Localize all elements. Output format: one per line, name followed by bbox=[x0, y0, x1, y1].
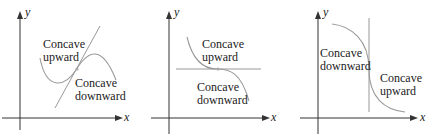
x-axis-arrow-icon bbox=[115, 115, 123, 121]
panel-vertical-tangent: y x Concave downward Concave upward bbox=[289, 0, 434, 140]
inflection-point bbox=[216, 67, 219, 70]
label-concave-upward: Concave upward bbox=[43, 38, 85, 64]
graph-2 bbox=[145, 0, 290, 140]
panel-horizontal-tangent: y x Concave upward Concave downward bbox=[145, 0, 290, 140]
x-axis-label: x bbox=[420, 110, 425, 125]
x-axis-arrow-icon bbox=[410, 115, 418, 121]
label-concave-upward: Concave upward bbox=[380, 72, 422, 98]
y-axis-arrow-icon bbox=[166, 11, 172, 19]
label-concave-downward: Concave downward bbox=[320, 47, 371, 73]
x-axis-label: x bbox=[271, 110, 276, 125]
panel-slanted-tangent: y x Concave upward Concave downward bbox=[0, 0, 145, 140]
inflection-point bbox=[75, 67, 78, 70]
label-concave-downward: Concave downward bbox=[75, 77, 126, 103]
label-concave-downward: Concave downward bbox=[197, 81, 248, 107]
y-axis-arrow-icon bbox=[17, 11, 23, 19]
x-axis-label: x bbox=[124, 110, 129, 125]
y-axis-label: y bbox=[323, 5, 328, 20]
y-axis-label: y bbox=[25, 5, 30, 20]
y-axis-label: y bbox=[174, 5, 179, 20]
label-concave-upward: Concave upward bbox=[202, 38, 244, 64]
y-axis-arrow-icon bbox=[315, 11, 321, 19]
x-axis-arrow-icon bbox=[262, 115, 270, 121]
